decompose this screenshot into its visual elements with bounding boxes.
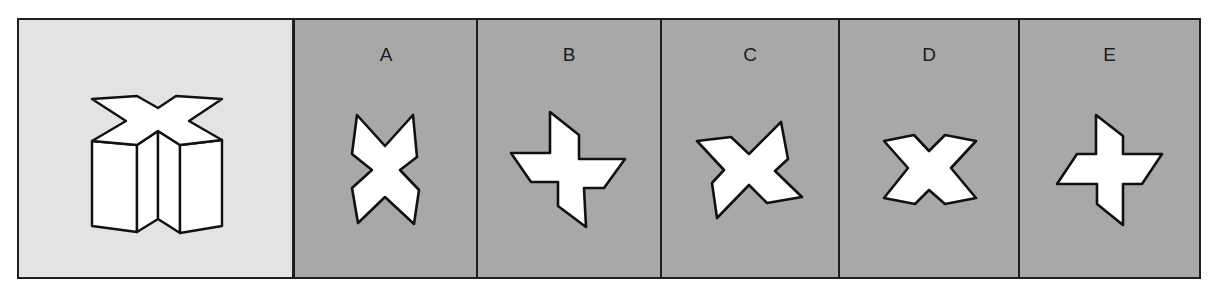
option-panel-c[interactable]: C xyxy=(660,20,838,277)
question-panel xyxy=(19,20,295,277)
option-label-e: E xyxy=(1020,45,1199,65)
option-label-c: C xyxy=(662,45,838,65)
option-label-b: B xyxy=(478,45,660,65)
option-label-a: A xyxy=(296,45,476,65)
spatial-puzzle: A B C D E xyxy=(17,18,1201,279)
option-label-d: D xyxy=(840,45,1018,65)
